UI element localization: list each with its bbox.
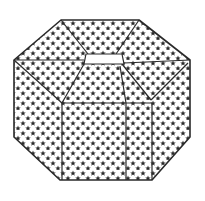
white-tab xyxy=(84,54,124,64)
origami-diagram xyxy=(0,0,205,201)
octagon-outline xyxy=(14,20,190,180)
origami-octagon-figure xyxy=(0,0,205,201)
